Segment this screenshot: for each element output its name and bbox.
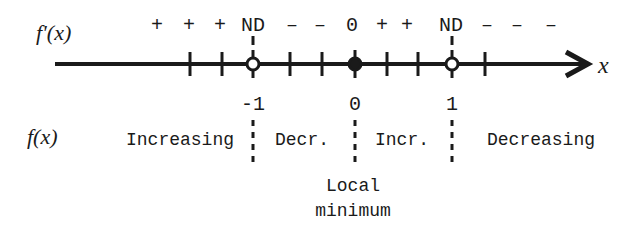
- open-circle-icon: [247, 58, 259, 70]
- interval-label: Increasing: [126, 130, 234, 150]
- derivative-sign-row: +++ND––0++ND–––: [151, 14, 557, 37]
- sign-symbol: +: [151, 14, 163, 37]
- annotation-line2: minimum: [315, 201, 391, 221]
- sign-symbol: +: [183, 14, 195, 37]
- sign-symbol: +: [376, 14, 388, 37]
- sign-symbol: +: [214, 14, 226, 37]
- sign-symbol: +: [401, 14, 413, 37]
- sign-symbol: ND: [439, 14, 463, 37]
- interval-behavior-row: IncreasingDecr.Incr.Decreasing: [126, 130, 595, 150]
- sign-symbol: –: [511, 14, 523, 37]
- sign-symbol: ND: [241, 14, 265, 37]
- axis-label: x: [597, 52, 609, 78]
- open-circle-icon: [446, 58, 458, 70]
- interval-label: Incr.: [375, 130, 429, 150]
- annotation-line1: Local: [326, 176, 380, 196]
- sign-symbol: –: [545, 14, 557, 37]
- filled-circle-icon: [349, 58, 361, 70]
- function-row-label: f(x): [27, 124, 58, 149]
- critical-value-labels: -101: [241, 93, 458, 116]
- upper-guides: [253, 36, 452, 45]
- interval-label: Decreasing: [487, 130, 595, 150]
- derivative-row-label: f'(x): [36, 20, 71, 45]
- sign-symbol: 0: [346, 14, 358, 37]
- critical-value-label: -1: [241, 93, 265, 116]
- sign-chart-diagram: f'(x) f(x) +++ND––0++ND––– x -101 Increa…: [0, 0, 628, 243]
- sign-symbol: –: [286, 14, 298, 37]
- sign-symbol: –: [314, 14, 326, 37]
- critical-value-label: 0: [349, 93, 361, 116]
- interval-label: Decr.: [275, 130, 329, 150]
- sign-chart-svg: f'(x) f(x) +++ND––0++ND––– x -101 Increa…: [0, 0, 628, 243]
- sign-symbol: –: [481, 14, 493, 37]
- critical-value-label: 1: [446, 93, 458, 116]
